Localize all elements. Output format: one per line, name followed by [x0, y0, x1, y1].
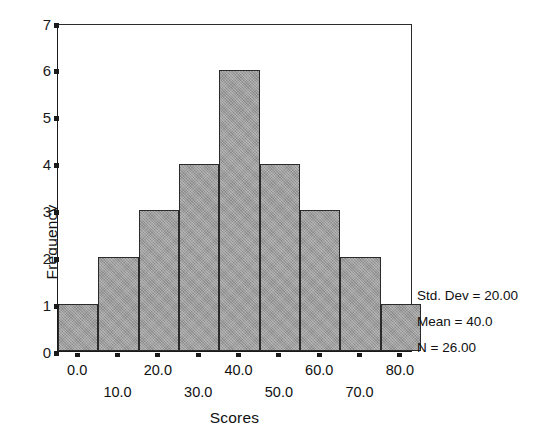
y-axis-tick-mark — [54, 163, 59, 168]
bar — [179, 164, 219, 351]
x-axis-tick-mark — [276, 353, 281, 357]
x-axis-title: Scores — [57, 409, 412, 427]
statistics-annotation: Std. Dev = 20.00 Mean = 40.0 N = 26.00 — [417, 283, 545, 361]
bar — [58, 304, 98, 351]
bar — [139, 210, 179, 351]
bar — [381, 304, 421, 351]
x-axis-tick-label: 40.0 — [209, 362, 269, 378]
x-axis-tick-label: 10.0 — [88, 384, 148, 400]
x-axis-tick-mark — [357, 353, 362, 357]
x-axis-tick-mark — [397, 353, 402, 357]
stat-n: N = 26.00 — [417, 335, 545, 361]
histogram-figure: 01234567 Frequency 0.010.020.030.040.050… — [0, 0, 548, 439]
stat-std-dev: Std. Dev = 20.00 — [417, 283, 545, 309]
x-axis-tick-label: 30.0 — [168, 384, 228, 400]
y-axis-tick-mark — [54, 23, 59, 28]
stat-mean: Mean = 40.0 — [417, 309, 545, 335]
bar — [260, 164, 300, 351]
y-axis-tick-label: 6 — [27, 63, 51, 78]
bar — [98, 257, 138, 351]
x-axis-tick-mark — [155, 353, 160, 357]
y-axis-tick-mark — [54, 69, 59, 74]
y-axis-tick-mark — [54, 210, 59, 215]
bar — [340, 257, 380, 351]
x-axis-tick-mark — [236, 353, 241, 357]
y-axis-tick-label: 5 — [27, 110, 51, 125]
x-axis-tick-label: 50.0 — [249, 384, 309, 400]
bar — [300, 210, 340, 351]
x-axis-tick-label: 80.0 — [370, 362, 430, 378]
bar — [219, 70, 259, 351]
x-axis-tick-mark — [196, 353, 201, 357]
x-axis-tick-label: 20.0 — [128, 362, 188, 378]
x-axis-tick-mark — [75, 353, 80, 357]
y-axis-tick-label: 7 — [27, 17, 51, 32]
y-axis-tick-mark — [54, 304, 59, 309]
x-axis-tick-mark — [115, 353, 120, 357]
x-axis-tick-labels-wrapper: 0.010.020.030.040.050.060.070.080.0 — [0, 362, 548, 414]
plot-area — [57, 24, 412, 352]
x-axis-tick-label: 0.0 — [47, 362, 107, 378]
y-axis-tick-mark — [54, 257, 59, 262]
x-axis-tick-mark — [317, 353, 322, 357]
y-axis-tick-label: 4 — [27, 157, 51, 172]
x-axis-tick-marks — [57, 353, 412, 359]
y-axis-tick-mark — [54, 116, 59, 121]
y-axis-tick-label: 0 — [27, 345, 51, 360]
x-axis-tick-label: 60.0 — [289, 362, 349, 378]
bar-series — [58, 25, 411, 351]
x-axis-tick-label: 70.0 — [330, 384, 390, 400]
x-axis-tick-labels: 0.010.020.030.040.050.060.070.080.0 — [57, 362, 412, 412]
